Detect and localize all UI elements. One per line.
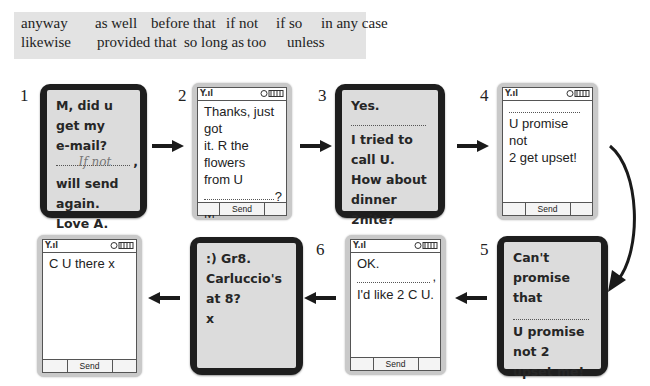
blank-line: [509, 103, 588, 115]
phone-screen: M, did u get my e-mail? If not , will se…: [47, 90, 140, 211]
send-button[interactable]: Send: [525, 203, 571, 215]
signal-icon: Y.ıl: [200, 89, 213, 99]
message-text: M, did u get my e-mail? If not , will se…: [56, 96, 134, 234]
signal-icon: Y.ıl: [353, 241, 366, 251]
send-button[interactable]: Send: [67, 360, 113, 372]
handwritten-answer: If not: [56, 152, 134, 172]
blank-line: [513, 308, 595, 322]
battery-icon: [566, 89, 590, 98]
message-number: 5: [480, 240, 489, 260]
softkey-bar: Send: [43, 359, 136, 372]
arrow-icon: [152, 139, 184, 153]
phone-screen: Can't promise that U promise not 2 upset…: [504, 242, 601, 369]
message-text: C U there x: [49, 255, 132, 272]
word-option: if so: [276, 15, 302, 32]
softkey-bar: Send: [503, 202, 592, 215]
battery-icon: [414, 241, 438, 250]
arrow-icon: [455, 291, 487, 305]
word-option: so long as: [184, 34, 244, 51]
send-button[interactable]: Send: [373, 358, 419, 370]
message-number: 2: [178, 86, 187, 106]
message-text: OK. , I'd like 2 C U.: [357, 255, 436, 303]
message-number: 3: [318, 86, 327, 106]
phone-message-2: Y.ıl Thanks, just got it. R the flowers …: [192, 83, 292, 220]
status-bar: Y.ıl: [43, 240, 136, 253]
word-box: anyway as well before that if not if so …: [14, 12, 366, 59]
word-option: likewise: [21, 34, 71, 51]
word-option: provided that: [97, 34, 177, 51]
arrow-icon: [304, 291, 336, 305]
phone-message-reply: Y.ıl OK. , I'd like 2 C U. Send: [345, 235, 446, 375]
softkey-bar: Send: [198, 202, 286, 215]
phone-screen: Yes. I tried to call U. How about dinner…: [342, 90, 438, 211]
word-option: in any case: [321, 15, 388, 32]
message-number: 1: [20, 86, 29, 106]
word-option: before that: [151, 15, 216, 32]
phone-screen: Y.ıl Thanks, just got it. R the flowers …: [197, 87, 287, 216]
phone-message-5: Can't promise that U promise not 2 upset…: [497, 236, 608, 376]
message-number: 4: [480, 86, 489, 106]
phone-screen: :) Gr8. Carluccio's at 8? x: [197, 243, 296, 368]
softkey-bar: Send: [351, 357, 440, 370]
phone-screen: Y.ıl OK. , I'd like 2 C U. Send: [350, 239, 441, 371]
status-bar: Y.ıl: [503, 88, 592, 101]
word-option: anyway: [21, 15, 68, 32]
blank-line: [351, 116, 432, 130]
arrow-icon: [148, 291, 180, 305]
message-text: U promise not 2 get upset!: [509, 103, 588, 166]
word-option: unless: [287, 34, 325, 51]
message-number: 6: [316, 240, 325, 260]
blank-line: If not ,: [56, 156, 134, 174]
send-button[interactable]: Send: [219, 203, 265, 215]
phone-screen: Y.ıl U promise not 2 get upset! Send: [502, 87, 593, 216]
message-text: Yes. I tried to call U. How about dinner…: [351, 96, 432, 230]
word-option: if not: [226, 15, 258, 32]
word-option: too: [247, 34, 266, 51]
phone-message-4: Y.ıl U promise not 2 get upset! Send: [497, 83, 598, 220]
phone-message-3: Yes. I tried to call U. How about dinner…: [335, 84, 445, 218]
blank-line: ,: [357, 272, 436, 286]
message-text: Can't promise that U promise not 2 upset…: [513, 248, 595, 382]
status-bar: Y.ıl: [198, 88, 286, 101]
phone-screen: Y.ıl C U there x Send: [42, 239, 137, 373]
battery-icon: [260, 89, 284, 98]
phone-message-6: :) Gr8. Carluccio's at 8? x: [190, 237, 303, 375]
signal-icon: Y.ıl: [45, 241, 58, 251]
signal-icon: Y.ıl: [505, 89, 518, 99]
status-bar: Y.ıl: [351, 240, 440, 253]
message-text: :) Gr8. Carluccio's at 8? x: [206, 249, 290, 329]
battery-icon: [110, 241, 134, 250]
word-option: as well: [95, 15, 137, 32]
arrow-icon: [457, 139, 489, 153]
phone-message-1: M, did u get my e-mail? If not , will se…: [40, 84, 147, 218]
phone-message-final: Y.ıl C U there x Send: [37, 235, 142, 377]
arrow-icon: [300, 139, 332, 153]
